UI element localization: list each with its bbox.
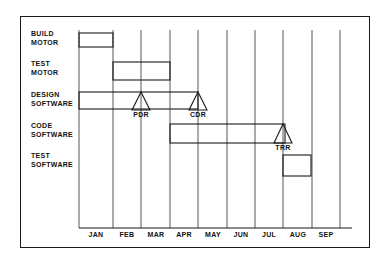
task-label-design-software-line1: DESIGN [31, 91, 60, 98]
task-label-design-software-line2: SOFTWARE [31, 100, 73, 107]
month-gridlines [79, 30, 340, 228]
month-tick-may: MAY [199, 231, 227, 238]
task-label-design-software: DESIGNSOFTWARE [31, 91, 73, 108]
task-bar-design-software[interactable] [79, 92, 198, 109]
month-tick-aug: AUG [284, 231, 312, 238]
task-bar-code-software[interactable] [170, 124, 285, 143]
milestone-label-trr: TRR [269, 144, 297, 151]
task-label-test-software-line2: SOFTWARE [31, 161, 73, 168]
task-label-test-motor: TESTMOTOR [31, 60, 58, 77]
task-label-build-motor: BUILDMOTOR [31, 30, 58, 47]
task-bar-test-motor[interactable] [113, 62, 170, 80]
task-label-code-software: CODESOFTWARE [31, 122, 73, 139]
task-label-code-software-line1: CODE [31, 122, 52, 129]
month-tick-sep: SEP [312, 231, 340, 238]
milestone-label-cdr: CDR [184, 111, 212, 118]
milestone-label-pdr: PDR [127, 111, 155, 118]
month-tick-jun: JUN [227, 231, 255, 238]
task-label-test-software-line1: TEST [31, 152, 50, 159]
task-label-test-motor-line1: TEST [31, 60, 50, 67]
month-tick-feb: FEB [113, 231, 141, 238]
task-label-code-software-line2: SOFTWARE [31, 131, 73, 138]
task-label-test-software: TESTSOFTWARE [31, 152, 73, 169]
task-label-build-motor-line1: BUILD [31, 30, 54, 37]
gantt-chart-figure: BUILDMOTOR TESTMOTOR DESIGNSOFTWARE CODE… [0, 0, 391, 265]
task-label-build-motor-line2: MOTOR [31, 39, 58, 46]
month-tick-jul: JUL [255, 231, 283, 238]
task-bar-test-software[interactable] [283, 155, 311, 176]
task-bar-build-motor[interactable] [79, 33, 113, 47]
month-tick-jan: JAN [82, 231, 110, 238]
month-tick-mar: MAR [142, 231, 170, 238]
task-label-test-motor-line2: MOTOR [31, 69, 58, 76]
month-tick-apr: APR [170, 231, 198, 238]
